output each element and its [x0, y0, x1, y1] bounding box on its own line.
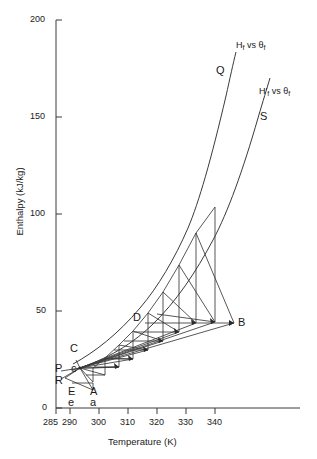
y-tick-label-50: 50 [36, 305, 46, 315]
chart-plot-area [0, 0, 317, 459]
axis-lines [56, 20, 300, 408]
curve-label-hfp-mid: vs θ [269, 86, 288, 96]
curve-label-hf-sub2: f [263, 44, 265, 51]
x-tick-label-330: 330 [178, 417, 193, 427]
curve-label-hf-prime: H′f vs θf [259, 86, 290, 97]
curve-label-hfp-main: H′ [259, 86, 267, 96]
y-tick-label-100: 100 [30, 208, 45, 218]
point-label-R: R [55, 374, 63, 386]
point-label-C-upper: C [70, 342, 78, 354]
horiz-line-8 [157, 314, 215, 322]
fan-line-10 [80, 323, 234, 368]
chart-figure: 200 150 100 50 0 285 290 300 310 320 330… [0, 0, 317, 459]
point-label-P: P [55, 362, 62, 374]
env-chord-8 [179, 233, 196, 265]
x-axis-ticks [56, 408, 215, 414]
rim-chord-2 [179, 265, 215, 322]
arrow-to-node3 [114, 363, 119, 369]
point-label-B: B [238, 316, 245, 328]
y-axis-title: Enthalpy (kJ/kg) [14, 157, 25, 247]
curve-label-hf: Hf vs θf [236, 40, 265, 51]
y-tick-label-200: 200 [30, 14, 45, 24]
x-axis-title: Temperature (K) [108, 436, 177, 447]
point-label-c-lower: c [71, 362, 77, 374]
point-label-Q: Q [216, 64, 225, 76]
x-tick-label-290: 290 [62, 417, 77, 427]
x-tick-label-320: 320 [149, 417, 164, 427]
y-tick-label-0: 0 [42, 402, 47, 412]
curve-label-hf-mid: vs θ [244, 40, 263, 50]
point-label-e: e [68, 396, 74, 408]
curve-label-hfp-sub2: f [288, 90, 290, 97]
env-chord-7 [163, 265, 179, 292]
x-tick-label-300: 300 [91, 417, 106, 427]
point-label-D: D [133, 311, 141, 323]
y-tick-label-150: 150 [30, 111, 45, 121]
x-tick-label-310: 310 [120, 417, 135, 427]
x-tick-label-340: 340 [207, 417, 222, 427]
point-label-S: S [260, 110, 267, 122]
node-origin-c [78, 366, 81, 369]
point-label-a: a [90, 396, 96, 408]
x-tick-label-285: 285 [43, 417, 58, 427]
y-axis-ticks [56, 20, 62, 408]
env-chord-9 [196, 207, 215, 233]
